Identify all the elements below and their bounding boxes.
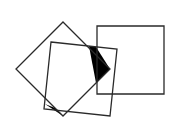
axis-square [97, 26, 164, 94]
square-outlines [16, 22, 164, 116]
squares-diagram [0, 0, 175, 134]
tilted-square [44, 42, 117, 116]
filled-regions [45, 46, 110, 116]
